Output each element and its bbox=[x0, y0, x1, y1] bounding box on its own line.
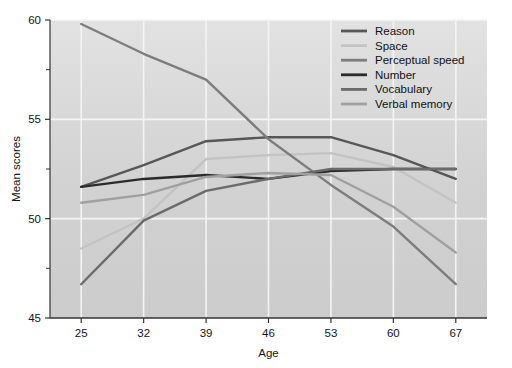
line-chart: 4550556025323946536067AgeMean scoresReas… bbox=[0, 0, 512, 368]
x-tick-label: 53 bbox=[325, 327, 338, 339]
legend-label-reason: Reason bbox=[375, 25, 415, 37]
legend-label-vocabulary: Vocabulary bbox=[375, 83, 432, 95]
legend-label-number: Number bbox=[375, 69, 416, 81]
x-tick-label: 32 bbox=[137, 327, 150, 339]
legend-label-space: Space bbox=[375, 40, 408, 52]
y-tick-label: 55 bbox=[28, 113, 41, 125]
legend-label-verbal-memory: Verbal memory bbox=[375, 98, 453, 110]
x-tick-label: 25 bbox=[75, 327, 88, 339]
y-tick-label: 60 bbox=[28, 14, 41, 26]
chart-figure: 4550556025323946536067AgeMean scoresReas… bbox=[0, 0, 512, 368]
x-tick-label: 46 bbox=[262, 327, 275, 339]
y-axis-title: Mean scores bbox=[10, 136, 22, 202]
legend-label-perceptual-speed: Perceptual speed bbox=[375, 54, 465, 66]
x-tick-label: 67 bbox=[449, 327, 462, 339]
x-axis-title: Age bbox=[258, 347, 278, 359]
x-tick-label: 39 bbox=[200, 327, 213, 339]
y-tick-label: 50 bbox=[28, 213, 41, 225]
x-tick-label: 60 bbox=[387, 327, 400, 339]
y-tick-label: 45 bbox=[28, 312, 41, 324]
